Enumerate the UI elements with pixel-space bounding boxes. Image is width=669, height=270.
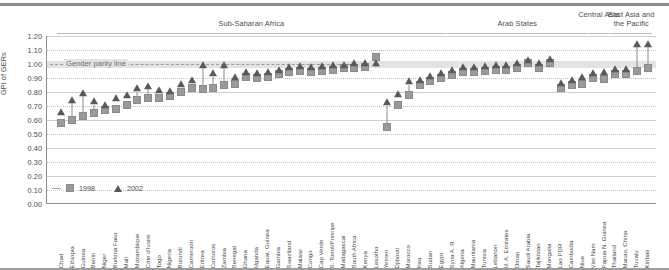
marker-2002 <box>123 91 131 98</box>
plot-area: Gender parity line <box>46 36 656 204</box>
marker-2002 <box>426 72 434 79</box>
y-tick-label: 0.70 <box>16 102 42 111</box>
marker-2002 <box>372 59 380 66</box>
marker-1998 <box>57 119 65 127</box>
legend-label-2002: 2002 <box>127 184 143 193</box>
marker-2002 <box>557 79 565 86</box>
x-tick-label: Senegal <box>231 246 237 268</box>
x-tick-label: Benin <box>90 252 96 268</box>
x-tick-label: Niue <box>578 255 584 268</box>
legend-label-1998: 1998 <box>79 184 95 193</box>
marker-1998 <box>578 80 586 88</box>
marker-2002 <box>57 108 65 115</box>
marker-2002 <box>535 59 543 66</box>
group-underline <box>610 33 652 34</box>
marker-2002 <box>209 69 217 76</box>
group-underline <box>447 33 587 34</box>
marker-1998 <box>405 91 413 99</box>
x-tick-label: Burundi <box>177 247 183 268</box>
x-tick-label: Chad <box>57 253 63 268</box>
y-tick-label: 0.40 <box>16 144 42 153</box>
marker-2002 <box>644 40 652 47</box>
legend-rule <box>52 188 61 189</box>
marker-1998 <box>231 80 239 88</box>
marker-2002 <box>568 76 576 83</box>
group-header-sub-saharan-africa: Sub-Saharan Africa <box>191 20 311 29</box>
marker-1998 <box>188 84 196 92</box>
marker-1998 <box>394 101 402 109</box>
marker-2002 <box>437 69 445 76</box>
x-tick-label: Gambia <box>275 247 281 268</box>
gender-parity-label: Gender parity line <box>64 59 128 68</box>
x-tick-label: U. A. Emirates <box>502 229 508 268</box>
x-tick-label: Uganda <box>253 247 259 268</box>
legend-marker-1998 <box>66 184 74 192</box>
x-tick-label: Egypt <box>437 252 443 268</box>
gridline <box>47 162 656 163</box>
marker-2002 <box>329 61 337 68</box>
marker-2002 <box>633 40 641 47</box>
marker-2002 <box>394 90 402 97</box>
x-tick-label: Lesotho <box>372 246 378 268</box>
marker-1998 <box>155 94 163 102</box>
x-tick-label: S. Tomé/Principe <box>329 222 335 268</box>
x-tick-label: Cap Verde <box>318 239 324 268</box>
marker-2002 <box>166 87 174 94</box>
marker-2002 <box>448 66 456 73</box>
marker-2002 <box>546 55 554 62</box>
x-tick-label: Yemen <box>383 249 389 268</box>
marker-2002 <box>416 76 424 83</box>
marker-2002 <box>144 82 152 89</box>
x-tick-label: Morocco <box>405 245 411 268</box>
marker-1998 <box>220 81 228 89</box>
marker-1998 <box>133 96 141 104</box>
marker-1998 <box>112 105 120 113</box>
x-tick-label: Niger <box>101 253 107 268</box>
marker-2002 <box>513 59 521 66</box>
gridline <box>47 120 656 121</box>
group-underline <box>588 33 609 34</box>
marker-2002 <box>470 63 478 70</box>
y-tick-label: 0.20 <box>16 172 42 181</box>
x-tick-label: Macao, China <box>622 230 628 268</box>
group-header-arab-states: Arab States <box>457 20 577 29</box>
y-tick-label: 0.50 <box>16 130 42 139</box>
marker-2002 <box>188 76 196 83</box>
x-tick-label: Mozambique <box>133 233 139 268</box>
marker-2002 <box>524 56 532 63</box>
x-tick-label: Viet Nam <box>589 243 595 268</box>
x-tick-label: Syria A. R. <box>448 239 454 268</box>
x-tick-label: Equat. Guinea <box>264 229 270 268</box>
marker-2002 <box>177 80 185 87</box>
gridline <box>47 176 656 177</box>
marker-1998 <box>199 85 207 93</box>
marker-2002 <box>133 84 141 91</box>
x-axis-labels: ChadEthiopiaGuineaBeninNigerBurkina Faso… <box>46 206 656 268</box>
marker-2002 <box>79 89 87 96</box>
x-tick-label: Zambia <box>220 248 226 268</box>
y-tick-label: 0.80 <box>16 88 42 97</box>
marker-1998 <box>123 101 131 109</box>
marker-1998 <box>600 75 608 83</box>
gridline <box>47 36 656 37</box>
x-tick-label: Lao PDR <box>557 243 563 268</box>
x-tick-label: Djibouti <box>394 248 400 268</box>
marker-2002 <box>68 96 76 103</box>
x-tick-label: Nigeria <box>166 249 172 268</box>
marker-2002 <box>285 63 293 70</box>
group-header-line: Arab States <box>457 20 577 29</box>
y-tick-label: 0.90 <box>16 74 42 83</box>
marker-2002 <box>383 98 391 105</box>
marker-1998 <box>144 94 152 102</box>
x-tick-label: Tajikistan <box>535 243 541 268</box>
x-tick-label: Kiribati <box>644 249 650 268</box>
marker-2002 <box>600 68 608 75</box>
marker-1998 <box>68 116 76 124</box>
marker-2002 <box>350 59 358 66</box>
marker-2002 <box>481 62 489 69</box>
x-tick-label: Kenya <box>361 251 367 268</box>
marker-1998 <box>633 67 641 75</box>
marker-2002 <box>307 63 315 70</box>
y-axis-title: GPI of GERs <box>0 52 8 95</box>
x-tick-label: Iraq <box>416 257 422 268</box>
